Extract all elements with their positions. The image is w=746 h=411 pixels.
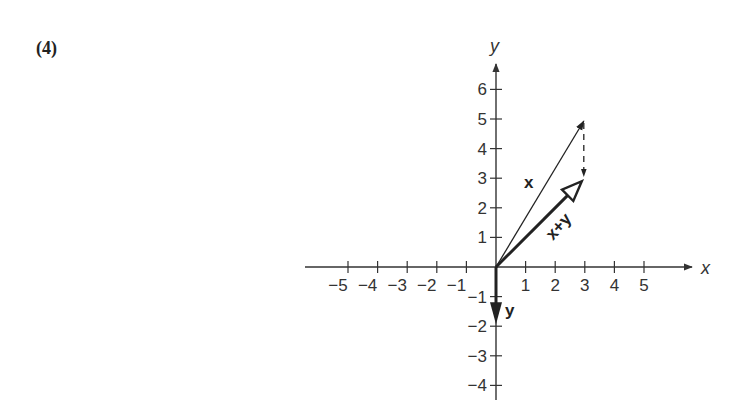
- y-tick-label: 6: [478, 80, 487, 99]
- x-tick-label: 2: [550, 276, 559, 295]
- labels: xy−5−4−3−2−112345654321−1−2−3−4xyx+y: [328, 36, 711, 395]
- x-tick-label: 1: [521, 276, 530, 295]
- y-tick-label: 3: [478, 169, 487, 188]
- vector-x-label: x: [524, 173, 534, 192]
- x-tick-label: −5: [328, 276, 347, 295]
- filled-arrowhead-icon: [490, 302, 502, 324]
- y-tick-label: −1: [468, 288, 487, 307]
- x-tick-label: −2: [417, 276, 436, 295]
- x-tick-label: 5: [639, 276, 648, 295]
- x-tick-label: −3: [388, 276, 407, 295]
- y-tick-label: 2: [478, 199, 487, 218]
- x-tick-label: 4: [610, 276, 619, 295]
- vector-y-label: y: [505, 301, 515, 320]
- y-tick-label: −4: [468, 376, 487, 395]
- vector-plot: xy−5−4−3−2−112345654321−1−2−3−4xyx+y: [0, 0, 746, 411]
- x-tick-label: −4: [358, 276, 377, 295]
- y-tick-label: 4: [478, 140, 487, 159]
- y-tick-label: −2: [468, 317, 487, 336]
- x-axis-label: x: [700, 258, 711, 278]
- y-axis-label: y: [488, 36, 500, 56]
- y-tick-label: 5: [478, 110, 487, 129]
- x-tick-label: 3: [580, 276, 589, 295]
- y-tick-label: 1: [478, 228, 487, 247]
- x-tick-label: −1: [447, 276, 466, 295]
- axes: [305, 64, 692, 400]
- y-tick-label: −3: [468, 347, 487, 366]
